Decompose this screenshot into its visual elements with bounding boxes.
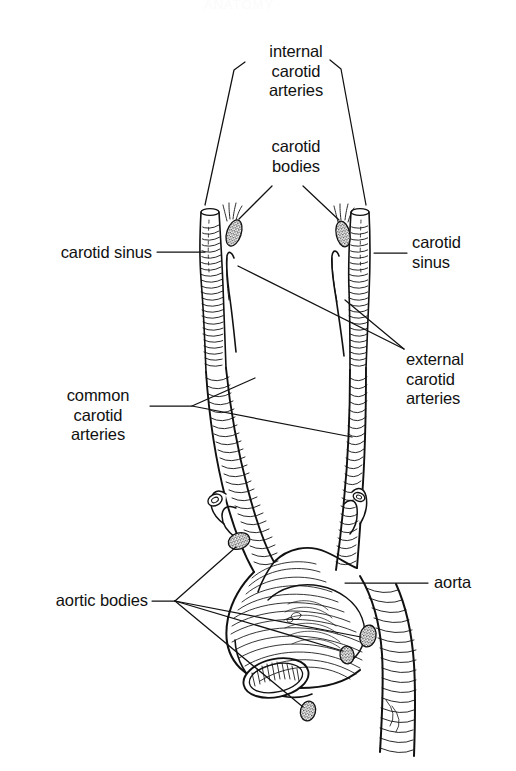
anatomical-figure: ANATOMY <box>0 0 516 771</box>
external-carotid-artery-left <box>227 252 236 352</box>
aortic-body-4 <box>298 699 317 722</box>
label-aorta: aorta <box>434 573 504 593</box>
descending-aorta <box>360 576 415 756</box>
external-carotid-artery-right <box>332 251 344 356</box>
label-external-carotid-arteries: external carotid arteries <box>406 350 514 409</box>
label-aortic-bodies: aortic bodies <box>8 591 148 611</box>
label-carotid-sinus-right: carotid sinus <box>412 233 512 272</box>
subclavian-artery-right <box>344 489 367 534</box>
internal-carotid-artery-left <box>200 209 226 372</box>
label-carotid-bodies: carotid bodies <box>248 137 344 176</box>
label-common-carotid-arteries: common carotid arteries <box>48 386 148 445</box>
label-internal-carotid-arteries: internal carotid arteries <box>248 42 344 101</box>
label-carotid-sinus-left: carotid sinus <box>10 243 152 263</box>
aortic-body-2 <box>358 624 378 649</box>
pulmonary-trunk-stump <box>235 640 312 703</box>
carotid-body-left <box>223 203 245 248</box>
subclavian-artery-left <box>206 491 236 538</box>
